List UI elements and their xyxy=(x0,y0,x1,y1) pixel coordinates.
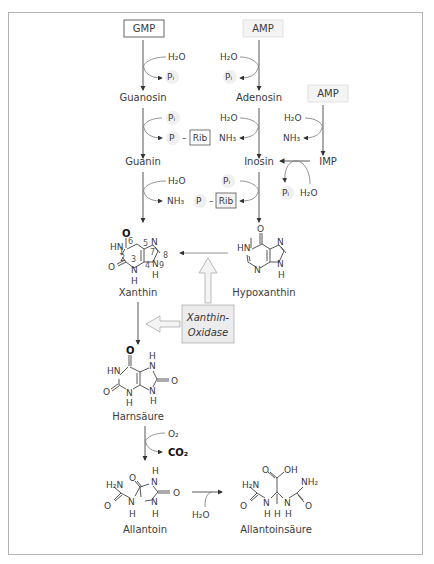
reagent-h2o-5: H₂O xyxy=(284,113,301,123)
curved-arrow-adenosin xyxy=(240,118,258,138)
atom-h: H xyxy=(149,351,156,361)
reagent-pi-4: Pᵢ xyxy=(223,176,230,186)
atom-oh: OH xyxy=(284,465,298,475)
curved-arrow-hydrolysis xyxy=(205,492,212,507)
atom-h2n: H₂N xyxy=(242,480,259,490)
atom-h: H xyxy=(278,270,285,280)
xanthin-structure: O HN O N H N N H 1 2 3 4 5 6 7 8 9 xyxy=(108,228,168,286)
allantoinsaeure-structure: H₂N O N H O OH H N H NH₂ O xyxy=(240,465,319,519)
atom-n: N xyxy=(151,477,158,487)
reagent-nh3-2: NH₃ xyxy=(219,133,237,143)
enzyme-arrow-up xyxy=(199,258,217,303)
node-adenosin: Adenosin xyxy=(236,92,282,103)
atom-h: H xyxy=(152,509,159,519)
atom-n: N xyxy=(277,237,284,247)
atom-o: O xyxy=(171,376,178,386)
curved-arrow-imp xyxy=(285,161,310,184)
atom-o: O xyxy=(173,488,180,498)
ring-number: 3 xyxy=(131,255,136,264)
reagent-nh3-3: NH₃ xyxy=(283,133,301,143)
reagent-nh3-1: NH₃ xyxy=(167,196,185,206)
node-inosin: Inosin xyxy=(244,156,274,167)
atom-n: N xyxy=(149,361,156,371)
reagent-h2o-6: H₂O xyxy=(300,188,317,198)
node-amp-right: AMP xyxy=(317,88,339,99)
reagent-h2o-7: H₂O xyxy=(192,510,209,520)
node-gmp: GMP xyxy=(133,23,155,34)
node-guanin: Guanin xyxy=(125,156,161,167)
atom-h: H xyxy=(152,466,159,476)
atom-o: O xyxy=(262,465,269,475)
curved-arrow-guanosin xyxy=(144,118,162,138)
atom-h: H xyxy=(129,509,136,519)
reagent-pi-3: Pᵢ xyxy=(225,72,232,82)
ring-number: 2 xyxy=(120,254,125,263)
atom-h: H xyxy=(152,270,159,280)
purine-degradation-diagram: GMP H₂O Pᵢ Guanosin Pᵢ P – Rib Guanin H₂… xyxy=(0,0,434,564)
atom-n: N xyxy=(277,259,284,269)
enzyme-line2: Oxidase xyxy=(188,327,228,338)
atom-o: O xyxy=(103,387,110,397)
reagent-pi-1: Pᵢ xyxy=(167,72,174,82)
atom-nh2: NH₂ xyxy=(301,477,319,487)
ring-number: 7 xyxy=(150,248,155,257)
node-xanthin: Xanthin xyxy=(119,287,158,298)
atom-h: H xyxy=(126,398,133,408)
ring-number: 6 xyxy=(128,237,133,246)
node-hypoxanthin: Hypoxanthin xyxy=(232,287,295,298)
reagent-pi-2: Pᵢ xyxy=(168,113,175,123)
atom-h: H xyxy=(274,509,281,519)
atom-o: O xyxy=(129,473,136,483)
dash-1: – xyxy=(182,133,187,143)
reagent-h2o-2: H₂O xyxy=(168,176,185,186)
atom-n: N xyxy=(149,386,156,396)
reagent-rib-1: Rib xyxy=(193,133,208,143)
curved-arrow-guanin xyxy=(144,181,166,201)
node-allantoin: Allantoin xyxy=(123,524,167,535)
atom-o: O xyxy=(240,501,247,511)
hypoxanthin-structure: O HN N N N H xyxy=(237,224,286,280)
atom-n: N xyxy=(128,497,135,507)
node-amp-top: AMP xyxy=(252,23,274,34)
node-harnsaeure: Harnsäure xyxy=(112,411,164,422)
atom-h: H xyxy=(264,509,271,519)
atom-n: N xyxy=(126,388,133,398)
atom-h: H xyxy=(131,276,138,286)
atom-n: N xyxy=(151,237,158,247)
enzyme-arrow-left xyxy=(146,316,180,332)
atom-n: N xyxy=(151,497,158,507)
atom-h2n: H₂N xyxy=(106,480,123,490)
atom-n: N xyxy=(131,265,138,275)
curved-arrow-amp-right xyxy=(304,118,322,138)
curved-arrow-oxidation xyxy=(146,433,165,452)
enzyme-line1: Xanthin- xyxy=(186,312,230,323)
ring-number: 8 xyxy=(163,251,168,260)
atom-n: N xyxy=(254,265,261,275)
atom-o: O xyxy=(305,501,312,511)
atom-o: O xyxy=(108,262,115,272)
ring-number: 5 xyxy=(143,239,148,248)
atom-o: O xyxy=(104,501,111,511)
curved-arrow-amp xyxy=(240,57,258,78)
reagent-o2: O₂ xyxy=(168,429,179,439)
harnsaeure-structure: O HN O N H H N N H O xyxy=(103,345,178,408)
atom-n: N xyxy=(152,259,159,269)
reagent-pi-5: Pᵢ xyxy=(282,188,289,198)
node-imp: IMP xyxy=(319,156,337,167)
atom-h: H xyxy=(285,509,292,519)
allantoin-structure: H₂N O N H O H N N H O xyxy=(104,466,180,519)
atom-h: H xyxy=(150,396,157,406)
reagent-p-1: P xyxy=(169,133,175,143)
reagent-h2o-1: H₂O xyxy=(168,52,185,62)
atom-o: O xyxy=(257,224,264,234)
atom-n: N xyxy=(284,498,291,508)
ring-number: 9 xyxy=(159,261,164,270)
node-guanosin: Guanosin xyxy=(120,92,167,103)
curved-arrow-gmp xyxy=(144,57,166,78)
ring-number: 4 xyxy=(145,261,150,270)
reagent-h2o-3: H₂O xyxy=(220,52,237,62)
dash-2: – xyxy=(209,196,214,206)
reagent-p-2: P xyxy=(196,196,202,206)
atom-n: N xyxy=(263,498,270,508)
atom-hn: HN xyxy=(107,366,121,376)
